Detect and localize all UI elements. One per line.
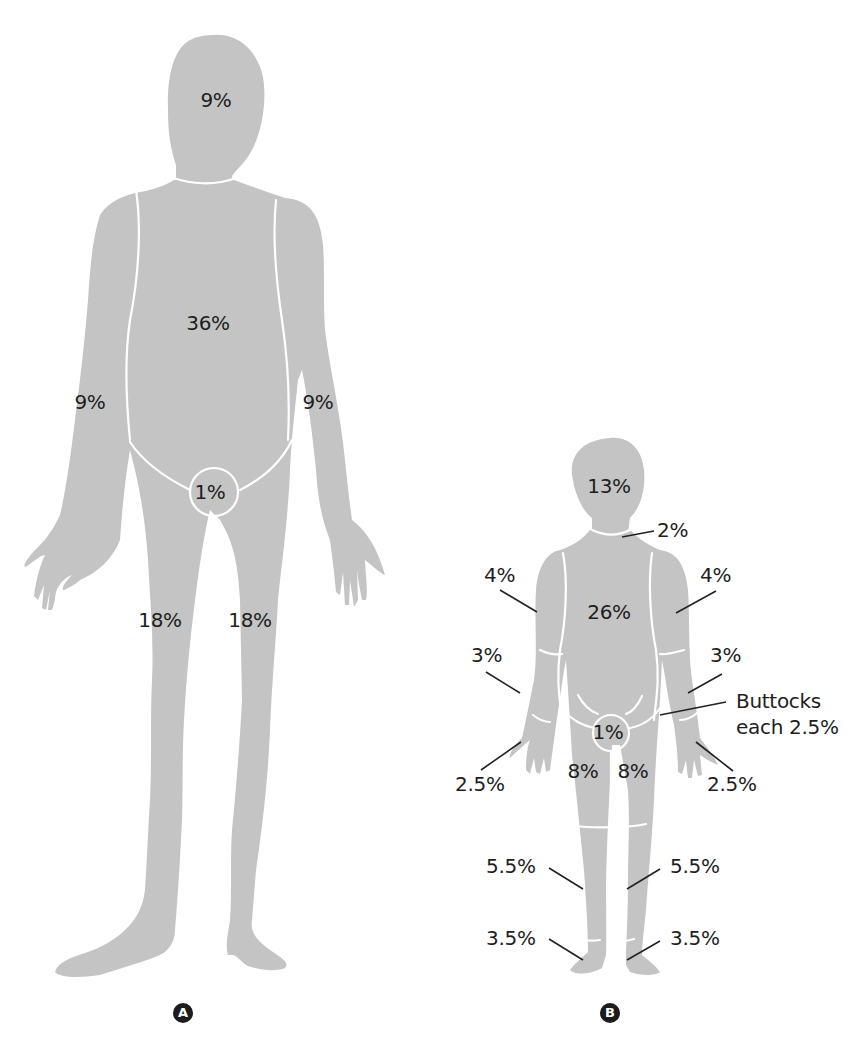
adult-right-leg-label: 18%	[138, 610, 182, 630]
child-buttocks-label: Buttocks each 2.5%	[736, 688, 839, 740]
child-buttocks-label-line1: Buttocks	[736, 688, 839, 714]
leader-left-forearm	[688, 674, 722, 693]
child-right-forearm-label: 3%	[471, 645, 502, 665]
body-surface-diagram	[0, 0, 866, 1043]
child-genitalia-label: 1%	[592, 722, 623, 742]
leader-left-hand	[696, 742, 733, 771]
child-figure	[481, 438, 733, 975]
adult-right-arm-label: 9%	[74, 392, 105, 412]
child-left-foot-label: 3.5%	[670, 928, 720, 948]
adult-genitalia-label: 1%	[194, 482, 225, 502]
child-left-thigh-label: 8%	[617, 761, 648, 781]
adult-figure	[24, 35, 385, 977]
child-head-label: 13%	[587, 476, 631, 496]
child-right-foot-label: 3.5%	[486, 928, 536, 948]
leader-right-upper-arm	[500, 590, 537, 612]
adult-left-arm-label: 9%	[302, 392, 333, 412]
child-left-hand-label: 2.5%	[707, 774, 757, 794]
child-left-lower-leg-label: 5.5%	[670, 856, 720, 876]
child-right-lower-leg-label: 5.5%	[486, 856, 536, 876]
figure-a-badge: A	[173, 1003, 193, 1023]
leader-right-hand	[481, 742, 521, 770]
child-neck-label: 2%	[657, 520, 688, 540]
leader-right-lower-leg	[549, 868, 583, 889]
adult-trunk-label: 36%	[186, 313, 230, 333]
leader-right-forearm	[486, 672, 520, 693]
leader-right-foot	[549, 939, 583, 960]
child-right-thigh-label: 8%	[567, 761, 598, 781]
child-buttocks-label-line2: each 2.5%	[736, 714, 839, 740]
adult-head-label: 9%	[200, 90, 231, 110]
child-right-hand-label: 2.5%	[455, 774, 505, 794]
adult-left-leg-label: 18%	[228, 610, 272, 630]
child-right-upper-arm-label: 4%	[484, 565, 515, 585]
adult-body-shape	[24, 180, 385, 977]
child-left-upper-arm-label: 4%	[700, 565, 731, 585]
figure-b-badge: B	[600, 1003, 620, 1023]
child-trunk-label: 26%	[587, 602, 631, 622]
child-body-shape	[510, 530, 718, 975]
child-left-forearm-label: 3%	[710, 645, 741, 665]
child-left-ankle-seam	[612, 939, 634, 941]
